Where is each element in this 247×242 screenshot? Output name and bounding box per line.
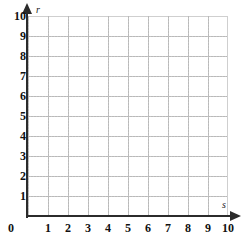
- origin-tick-label: 0: [8, 222, 14, 234]
- y-axis-label: r: [36, 5, 40, 15]
- y-tick-label: 9: [20, 30, 26, 42]
- gridline-horizontal: [28, 96, 228, 97]
- x-tick-label: 6: [145, 222, 151, 234]
- x-tick-label: 3: [85, 222, 91, 234]
- gridline-vertical: [208, 16, 209, 216]
- gridline-horizontal: [28, 116, 228, 117]
- y-tick-label: 5: [20, 110, 26, 122]
- gridline-horizontal: [28, 16, 228, 17]
- x-axis-line: [26, 215, 232, 217]
- gridline-horizontal: [28, 36, 228, 37]
- gridline-vertical: [48, 16, 49, 216]
- x-tick-label: 1: [45, 222, 51, 234]
- x-tick-label: 7: [165, 222, 171, 234]
- y-tick-label: 3: [20, 150, 26, 162]
- x-tick-label: 10: [222, 222, 234, 234]
- y-tick-label: 2: [20, 170, 26, 182]
- gridline-vertical: [148, 16, 149, 216]
- gridline-vertical: [227, 16, 228, 216]
- gridline-horizontal: [28, 56, 228, 57]
- coordinate-grid-figure: r s 0 1 2 3 4 5 6 7 8 9 10 1 2 3 4 5 6 7…: [0, 0, 247, 242]
- y-tick-label: 8: [20, 50, 26, 62]
- gridline-vertical: [88, 16, 89, 216]
- gridline-horizontal: [28, 196, 228, 197]
- x-tick-label: 9: [205, 222, 211, 234]
- gridline-horizontal: [28, 176, 228, 177]
- x-tick-label: 8: [185, 222, 191, 234]
- y-tick-label: 7: [20, 70, 26, 82]
- y-axis-line: [26, 12, 28, 218]
- x-tick-label: 2: [65, 222, 71, 234]
- plot-area: [28, 16, 228, 216]
- gridline-vertical: [188, 16, 189, 216]
- y-tick-label: 6: [20, 90, 26, 102]
- y-tick-label: 1: [20, 190, 26, 202]
- y-tick-label: 4: [20, 130, 26, 142]
- y-tick-label: 10: [14, 10, 26, 22]
- gridline-vertical: [168, 16, 169, 216]
- gridline-horizontal: [28, 136, 228, 137]
- x-axis-label: s: [222, 200, 226, 210]
- gridline-vertical: [128, 16, 129, 216]
- gridline-vertical: [108, 16, 109, 216]
- gridline-horizontal: [28, 76, 228, 77]
- x-tick-label: 4: [105, 222, 111, 234]
- gridline-vertical: [68, 16, 69, 216]
- gridline-horizontal: [28, 156, 228, 157]
- x-axis-arrow-icon: [230, 211, 241, 221]
- x-tick-label: 5: [125, 222, 131, 234]
